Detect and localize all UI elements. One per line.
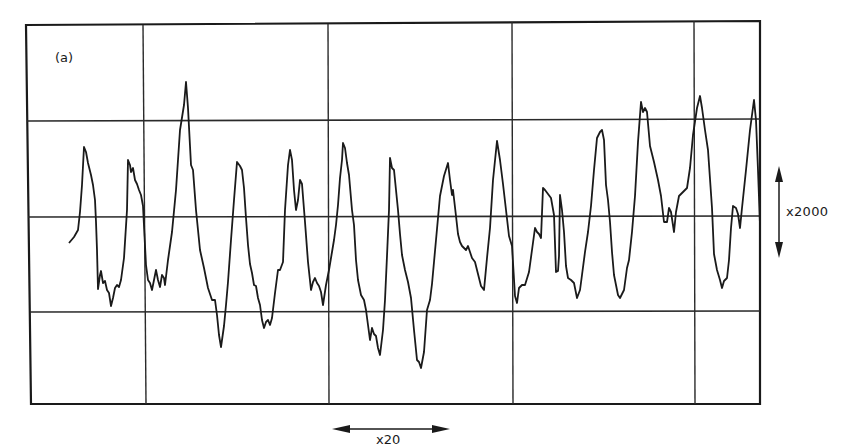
vertical-scale-arrow: [775, 166, 783, 258]
waveform-trace: [69, 82, 760, 368]
plot-frame: [26, 21, 760, 404]
horizontal-magnification-label: x20: [376, 432, 400, 446]
vertical-gridlines: [143, 21, 695, 404]
panel-label: (a): [55, 50, 73, 65]
waveform-chart: [0, 0, 857, 446]
vertical-magnification-label: x2000: [786, 204, 828, 219]
